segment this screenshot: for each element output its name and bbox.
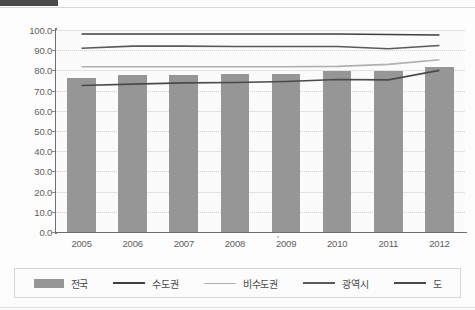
line-series [82, 70, 440, 85]
y-axis-labels: 100.090.080.070.060.050.040.030.020.010.… [0, 10, 52, 262]
y-axis-tick-label: 90.0 [2, 45, 52, 56]
legend-item-label: 광역시 [342, 276, 368, 291]
y-axis-tick-label: 70.0 [2, 85, 52, 96]
x-axis-line [55, 232, 467, 233]
legend-item[interactable]: 도 [394, 276, 442, 291]
plot-area [56, 30, 465, 232]
y-axis-tick-label: 40.0 [2, 146, 52, 157]
y-axis-tick-label: 100.0 [2, 25, 52, 36]
legend-line-swatch-icon [113, 282, 145, 284]
x-axis-tick-label: 2009 [276, 238, 296, 249]
y-axis-tick-label: 50.0 [2, 126, 52, 137]
x-axis-tick-label: 2005 [71, 238, 91, 249]
legend-item-label: 도 [433, 276, 442, 291]
x-axis-tick-label: 2011 [378, 238, 398, 249]
chart-canvas: 100.090.080.070.060.050.040.030.020.010.… [0, 10, 475, 262]
y-axis-tick-label: 20.0 [2, 186, 52, 197]
y-axis-tick-label: 80.0 [2, 65, 52, 76]
legend-line-swatch-icon [394, 282, 426, 284]
x-axis-tick-label: 2012 [429, 238, 449, 249]
page-top-marker [0, 0, 58, 6]
line-series-layer [56, 30, 465, 232]
legend-item-label: 수도권 [152, 276, 178, 291]
legend-bar-swatch-icon [34, 279, 64, 288]
chart-page: 100.090.080.070.060.050.040.030.020.010.… [0, 0, 475, 310]
y-axis-tick-label: 0.0 [2, 227, 52, 238]
legend-item[interactable]: 수도권 [113, 276, 178, 291]
x-axis-tick-label: 2008 [225, 238, 245, 249]
legend-line-swatch-icon [204, 283, 236, 284]
x-axis-tick-label: 2010 [327, 238, 347, 249]
line-series [82, 46, 440, 49]
bottom-divider [0, 307, 475, 308]
x-axis-tick-label: 2006 [123, 238, 143, 249]
y-axis-tick-label: 10.0 [2, 206, 52, 217]
top-divider [0, 7, 475, 8]
legend-item[interactable]: 광역시 [303, 276, 368, 291]
x-axis-labels: 20052006200720082009201020112012 [56, 238, 465, 256]
legend-item-label: 전국 [71, 276, 89, 291]
legend-line-swatch-icon [303, 282, 335, 284]
x-axis-tick-label: 2007 [174, 238, 194, 249]
line-series [82, 34, 440, 35]
y-axis-tick-label: 30.0 [2, 166, 52, 177]
y-axis-tick-label: 60.0 [2, 105, 52, 116]
legend-item[interactable]: 전국 [34, 276, 89, 291]
legend-item-label: 비수도권 [243, 276, 278, 291]
chart-legend: 전국수도권비수도권광역시도 [14, 268, 461, 298]
line-series [82, 60, 440, 67]
legend-item[interactable]: 비수도권 [204, 276, 278, 291]
